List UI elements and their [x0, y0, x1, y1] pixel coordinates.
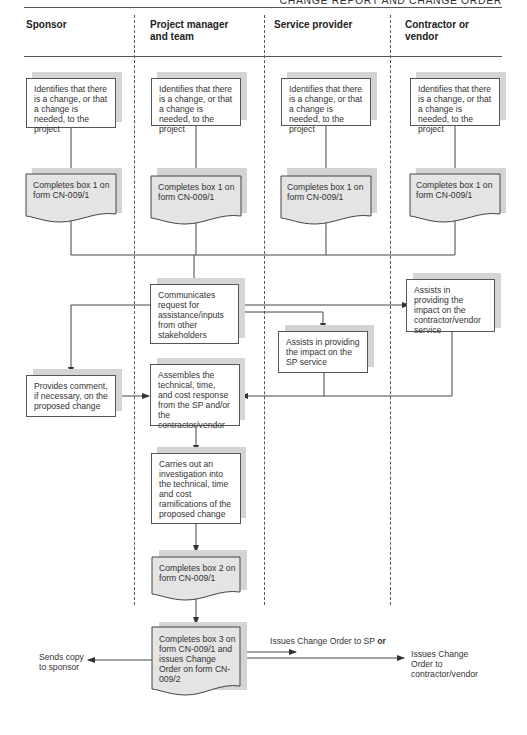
node-cv-completes-box1: Completes box 1 on form CN-009/1: [416, 180, 496, 200]
node-cv-identifies-change: Identifies that there is a change, or th…: [410, 78, 500, 126]
node-pm-completes-box3: Completes box 3 on form CN-009/1 and iss…: [159, 634, 237, 684]
node-pm-completes-box2: Completes box 2 on form CN-009/1: [159, 563, 239, 583]
node-sponsor-completes-box1: Completes box 1 on form CN-009/1: [33, 180, 113, 200]
output-issues-change-order-sp: Issues Change Order to SP or: [270, 636, 390, 646]
node-pm-communicates-request: Communicates request for assistance/inpu…: [150, 284, 239, 344]
node-sponsor-identifies-change: Identifies that there is a change, or th…: [26, 78, 116, 128]
node-pm-investigates: Carries out an investigation into the te…: [151, 453, 241, 524]
node-sponsor-provides-comment: Provides comment, if necessary, on the p…: [26, 375, 116, 417]
node-pm-completes-box1: Completes box 1 on form CN-009/1: [158, 182, 238, 202]
node-pm-assembles-response: Assembles the technical, time, and cost …: [150, 364, 240, 426]
node-sp-identifies-change: Identifies that there is a change, or th…: [281, 78, 371, 126]
output-issues-change-order-contractor: Issues Change Order to contractor/vendor: [411, 649, 483, 679]
node-pm-identifies-change: Identifies that there is a change, or th…: [151, 78, 241, 126]
document-shapes: [26, 168, 506, 695]
issue-sp-text: Issues Change Order to SP: [270, 636, 375, 646]
output-sends-copy-to-sponsor: Sends copy to sponsor: [39, 652, 89, 672]
node-sp-assists-impact: Assists in providing the impact on the S…: [278, 331, 368, 373]
node-cv-assists-impact: Assists in providing the impact on the c…: [406, 279, 495, 332]
issue-sp-or: or: [377, 636, 386, 646]
node-sp-completes-box1: Completes box 1 on form CN-009/1: [287, 182, 367, 202]
